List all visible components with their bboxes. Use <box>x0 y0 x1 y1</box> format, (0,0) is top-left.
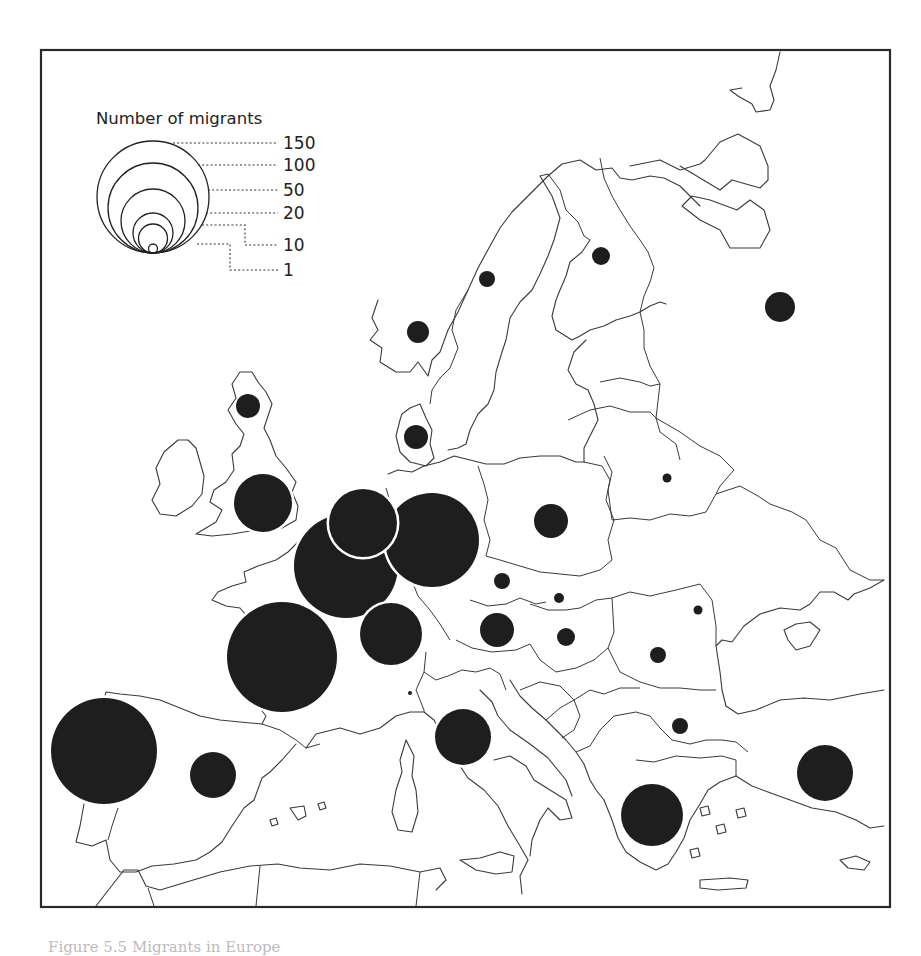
legend-labels: 1501005020101 <box>283 133 315 280</box>
border-poland-south <box>486 556 612 576</box>
migrant-bubble: Austria <box>480 613 514 647</box>
border-balkans <box>546 688 748 752</box>
migrant-bubble: Luxembourg / E France <box>360 603 422 665</box>
leader-10 <box>202 225 278 245</box>
border-poland-east <box>584 462 614 560</box>
migrant-bubble: England & Wales <box>234 474 292 532</box>
migrant-bubble: Moldova <box>694 606 703 615</box>
border-france-spain <box>262 724 320 748</box>
migrant-bubble: Netherlands <box>329 489 397 557</box>
migrant-bubble: Finland <box>592 247 610 265</box>
migrant-bubbles: FrancePortugal / NW IberiaBelgiumGermany… <box>49 247 856 849</box>
migrant-bubble: Portugal / NW Iberia <box>51 698 157 804</box>
border-bulgaria-greece <box>636 756 736 776</box>
coast-north-germany-poland <box>388 456 584 474</box>
figure-caption: Figure 5.5 Migrants in Europe <box>48 938 280 956</box>
migrant-bubble: Belarus <box>663 474 672 483</box>
coast-corsica-sardinia <box>392 740 418 832</box>
border-norway-sweden <box>430 290 468 404</box>
legend-ring-1 <box>149 244 158 253</box>
migrant-bubble: Scotland <box>236 394 260 418</box>
legend-ring-100 <box>108 163 198 253</box>
migrant-bubble: Bulgaria <box>672 718 688 734</box>
coast-kola <box>630 134 770 248</box>
migrant-bubble: Germany <box>385 493 479 587</box>
border-latvia-lithuania <box>568 406 656 420</box>
legend: Number of migrants 1501005020101 <box>96 109 315 280</box>
leader-1 <box>197 244 278 270</box>
border-spain-portugal <box>108 808 118 840</box>
migrant-bubble: Denmark <box>404 425 428 449</box>
migrant-bubble: Turkey <box>797 745 853 801</box>
migrant-bubble: France <box>227 602 337 712</box>
legend-label-100: 100 <box>283 155 315 175</box>
border-bosnia <box>520 682 580 738</box>
migrant-bubble: Poland <box>534 504 568 538</box>
coast-italy-adriatic <box>480 690 572 796</box>
migrant-bubble: Switzerland <box>408 691 412 695</box>
coast-balearics <box>270 802 326 826</box>
border-russia-ukraine-east <box>850 570 884 580</box>
migrant-bubble: Spain <box>190 752 236 798</box>
coast-sweden-east <box>448 176 560 450</box>
coast-med-france <box>306 712 444 748</box>
coast-black-sea <box>716 580 884 714</box>
border-estonia-latvia <box>600 378 660 386</box>
coast-norway <box>370 160 700 376</box>
legend-ring-150 <box>97 141 209 253</box>
legend-label-50: 50 <box>283 180 305 200</box>
legend-leaders <box>173 143 278 270</box>
migrant-bubble: Romania <box>650 647 666 663</box>
coast-sicily <box>460 852 514 874</box>
migrant-bubble: Sweden <box>479 271 495 287</box>
coast-crimea <box>784 622 820 650</box>
map-frame <box>41 50 890 907</box>
legend-label-1: 1 <box>283 260 294 280</box>
border-baltics-russia <box>640 312 680 460</box>
coast-baltics <box>568 340 598 462</box>
migrant-bubble: Russia <box>765 292 795 322</box>
migrant-bubble: Slovakia <box>554 593 564 603</box>
migrant-bubble: Italy <box>435 709 491 765</box>
coast-north-africa <box>96 864 446 906</box>
legend-label-150: 150 <box>283 133 315 153</box>
migrant-bubble: Hungary <box>557 628 575 646</box>
border-czech-austria <box>470 598 546 606</box>
legend-ring-10 <box>139 224 168 253</box>
migrant-bubble: Czech Republic <box>494 573 510 589</box>
border-sweden-finland <box>540 174 590 240</box>
border-romania <box>608 584 716 690</box>
border-ukraine-north <box>612 486 850 570</box>
coast-cyprus <box>840 856 870 870</box>
legend-title: Number of migrants <box>96 109 262 128</box>
border-finland-russia <box>600 158 654 312</box>
border-slovakia-hungary <box>530 598 612 610</box>
coast-ireland <box>152 440 204 516</box>
migrant-bubble: Greece <box>621 784 683 846</box>
legend-label-10: 10 <box>283 235 305 255</box>
border-africa-1 <box>148 866 420 906</box>
legend-rings <box>97 141 209 253</box>
border-belarus <box>604 418 734 520</box>
migrant-bubble: Norway <box>407 321 429 343</box>
coast-arctic-east <box>730 52 780 112</box>
legend-label-20: 20 <box>283 203 305 223</box>
coast-aegean-islands <box>690 806 748 890</box>
